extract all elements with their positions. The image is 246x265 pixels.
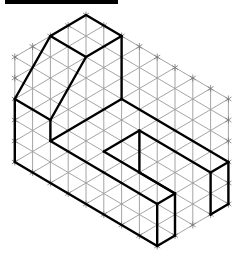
grid-line-diagonal [50, 68, 68, 79]
grid-line-diagonal [175, 162, 193, 173]
grid-line-diagonal [86, 120, 104, 131]
grid-line-diagonal [193, 194, 211, 205]
grid-line-diagonal [104, 89, 122, 100]
grid-line-diagonal [157, 78, 175, 89]
grid-line-diagonal [157, 152, 175, 163]
grid-line-diagonal [86, 89, 104, 100]
grid-line-diagonal [33, 152, 51, 163]
grid-line-diagonal [175, 110, 193, 121]
grid-line-diagonal [139, 204, 157, 215]
grid-line-diagonal [157, 215, 175, 226]
grid-line-diagonal [122, 152, 140, 163]
grid-line-diagonal [157, 131, 175, 142]
grid-line-diagonal [33, 131, 51, 142]
grid-line-diagonal [86, 99, 104, 110]
grid-line-diagonal [175, 173, 193, 184]
grid-line-diagonal [104, 131, 122, 142]
grid-line-diagonal [50, 120, 68, 131]
grid-line-diagonal [175, 194, 193, 205]
shape-edge [211, 162, 229, 173]
grid-line-diagonal [104, 110, 122, 121]
grid-line-diagonal [104, 47, 122, 58]
grid-line-diagonal [68, 131, 86, 142]
grid-line-diagonal [175, 89, 193, 100]
grid-line-diagonal [104, 183, 122, 194]
grid-line-diagonal [33, 89, 51, 100]
grid-line-diagonal [68, 141, 86, 152]
grid-line-diagonal [33, 99, 51, 110]
grid-line-diagonal [122, 141, 140, 152]
grid-line-diagonal [86, 183, 104, 194]
grid-line-diagonal [139, 215, 157, 226]
grid-line-diagonal [122, 57, 140, 68]
grid-line-diagonal [122, 173, 140, 184]
grid-line-diagonal [139, 183, 157, 194]
grid-line-diagonal [50, 162, 68, 173]
grid-line-diagonal [68, 110, 86, 121]
grid-line-diagonal [193, 99, 211, 110]
grid-line-diagonal [104, 162, 122, 173]
grid-line-diagonal [157, 204, 175, 215]
grid-line-diagonal [86, 68, 104, 79]
grid-line-diagonal [193, 110, 211, 121]
grid-line-diagonal [50, 78, 68, 89]
grid-line-diagonal [139, 162, 157, 173]
grid-line-diagonal [122, 110, 140, 121]
grid-line-diagonal [139, 152, 157, 163]
grid-line-diagonal [193, 152, 211, 163]
grid-line-diagonal [68, 89, 86, 100]
grid-line-diagonal [104, 194, 122, 205]
grid-line-diagonal [157, 162, 175, 173]
grid-line-diagonal [50, 57, 68, 68]
grid-line-diagonal [86, 78, 104, 89]
grid-line-diagonal [33, 141, 51, 152]
grid-line-diagonal [122, 68, 140, 79]
grid-line-diagonal [68, 36, 86, 47]
grid-line-diagonal [157, 110, 175, 121]
grid-line-diagonal [157, 173, 175, 184]
grid-line-diagonal [122, 78, 140, 89]
grid-line-diagonal [68, 99, 86, 110]
grid-line-diagonal [122, 194, 140, 205]
grid-line-diagonal [86, 36, 104, 47]
grid-line-diagonal [104, 78, 122, 89]
grid-line-diagonal [86, 173, 104, 184]
shape-edge [211, 204, 229, 215]
grid-line-diagonal [33, 78, 51, 89]
grid-line-diagonal [33, 68, 51, 79]
grid-line-diagonal [104, 120, 122, 131]
grid-line-diagonal [175, 120, 193, 131]
grid-line-diagonal [122, 204, 140, 215]
grid-line-diagonal [86, 57, 104, 68]
grid-line-diagonal [33, 120, 51, 131]
grid-line-diagonal [157, 99, 175, 110]
grid-line-diagonal [86, 152, 104, 163]
grid-line-diagonal [122, 89, 140, 100]
shape-edge [157, 236, 175, 247]
grid-line-diagonal [193, 183, 211, 194]
grid-line-diagonal [175, 141, 193, 152]
grid-line-diagonal [86, 141, 104, 152]
grid-line-diagonal [139, 141, 157, 152]
grid-line-diagonal [139, 99, 157, 110]
grid-line-diagonal [193, 120, 211, 131]
grid-line-diagonal [139, 68, 157, 79]
shape-edge [157, 194, 175, 205]
grid-line-diagonal [139, 78, 157, 89]
grid-line-diagonal [193, 131, 211, 142]
grid-line-diagonal [122, 120, 140, 131]
grid-line-diagonal [104, 68, 122, 79]
grid-line-diagonal [139, 89, 157, 100]
grid-line-diagonal [139, 120, 157, 131]
grid-line-diagonal [175, 183, 193, 194]
isometric-drawing [0, 0, 246, 265]
grid-line-diagonal [193, 173, 211, 184]
grid-line-diagonal [157, 89, 175, 100]
grid-line-diagonal [175, 204, 193, 215]
grid-line-diagonal [50, 47, 68, 58]
grid-line-diagonal [50, 152, 68, 163]
grid-line-diagonal [68, 173, 86, 184]
grid-line-diagonal [104, 57, 122, 68]
grid-line-diagonal [86, 131, 104, 142]
grid-line-diagonal [68, 162, 86, 173]
